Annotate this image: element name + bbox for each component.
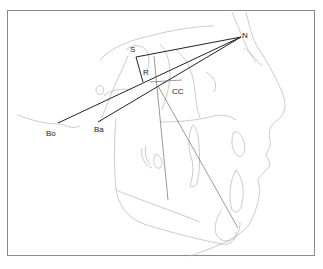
construction-lines [58,37,241,123]
anatomy-trace [18,12,285,256]
y-axis-line [158,86,238,228]
landmark-label-n: N [242,32,248,40]
vertical-axis-line [154,56,168,200]
landmark-label-ba: Ba [94,126,104,134]
landmark-label-bo: Bo [46,130,56,138]
line-Bo-N [58,37,241,123]
landmark-label-cc: CC [172,88,184,96]
line-S-R [136,57,143,82]
landmark-label-r: R [143,69,149,77]
landmark-label-s: S [130,46,135,54]
line-S-N [136,37,241,57]
line-Ba-N [98,37,241,122]
